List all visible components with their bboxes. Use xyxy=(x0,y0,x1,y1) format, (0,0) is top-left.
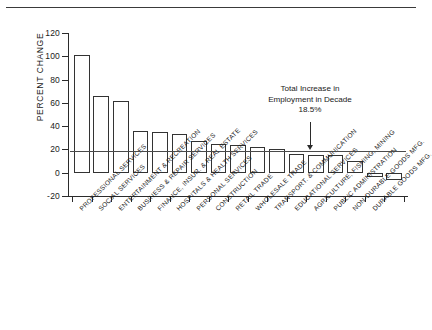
x-axis-line xyxy=(68,196,408,197)
y-tick-label: 80 xyxy=(0,75,60,85)
annotation-line: Total Increase in xyxy=(230,84,390,95)
y-tick-mark xyxy=(62,173,69,174)
y-tick-mark xyxy=(62,149,69,150)
annotation-arrow-head xyxy=(307,145,313,150)
bar xyxy=(74,55,90,173)
x-tick-mark xyxy=(404,196,405,202)
y-tick-label: 40 xyxy=(0,121,60,131)
y-tick-label: 0 xyxy=(0,168,60,178)
bar xyxy=(269,149,285,172)
annotation-arrow-shaft xyxy=(310,122,311,146)
annotation-total-increase: Total Increase inEmployment in Decade18.… xyxy=(230,84,390,116)
y-tick-label: 100 xyxy=(0,51,60,61)
y-tick-mark xyxy=(62,56,69,57)
y-tick-mark xyxy=(62,80,69,81)
annotation-line: Employment in Decade xyxy=(230,95,390,106)
top-divider-rule xyxy=(6,7,416,8)
bar xyxy=(93,96,109,173)
y-tick-mark xyxy=(62,33,69,34)
y-tick-label: 20 xyxy=(0,144,60,154)
y-tick-mark xyxy=(62,126,69,127)
y-axis-line xyxy=(68,33,69,196)
y-tick-label: 60 xyxy=(0,98,60,108)
y-tick-label: -20 xyxy=(0,191,60,201)
reference-line-18-5 xyxy=(70,151,406,152)
y-tick-mark xyxy=(62,103,69,104)
y-tick-mark xyxy=(62,196,69,197)
y-tick-label: 120 xyxy=(0,28,60,38)
x-tick-mark xyxy=(72,196,73,202)
annotation-line: 18.5% xyxy=(230,105,390,116)
